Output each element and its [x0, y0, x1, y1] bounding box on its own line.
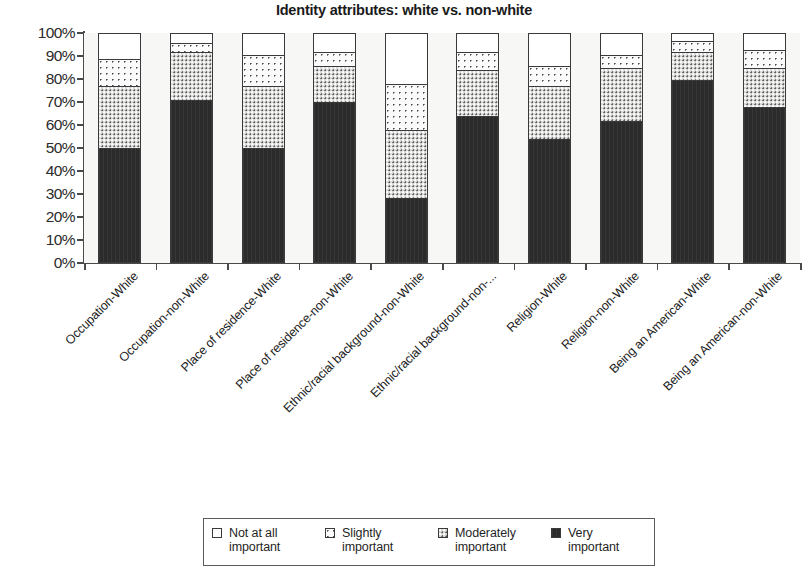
bar-segment	[601, 68, 642, 120]
y-tick-label: 90%	[46, 48, 75, 64]
y-tick-mark	[77, 216, 84, 218]
bar-segment	[171, 34, 212, 43]
bar-segment	[171, 43, 212, 52]
bar-segment	[386, 198, 427, 262]
x-axis-label: Religion-White	[504, 269, 570, 335]
chart-title: Identity attributes: white vs. non-white	[0, 2, 808, 18]
y-tick-mark	[77, 124, 84, 126]
bar-segment	[529, 66, 570, 87]
legend-label-line2: important	[229, 540, 280, 554]
y-tick-mark	[77, 32, 84, 34]
legend-label: Not at allimportant	[229, 526, 280, 554]
bar-segment	[171, 100, 212, 262]
stacked-bar[interactable]	[170, 33, 213, 263]
y-tick-label: 10%	[46, 232, 75, 248]
plot-area	[84, 33, 800, 263]
bar-segment	[672, 52, 713, 79]
x-axis-label: Religion-non-White	[559, 269, 642, 352]
legend-label-line1: Very	[568, 526, 619, 540]
stacked-bar[interactable]	[528, 33, 571, 263]
legend-item[interactable]: Veryimportant	[551, 526, 664, 554]
x-axis-label: Place of residence-non-White	[233, 269, 356, 392]
stacked-bar[interactable]	[242, 33, 285, 263]
legend-swatch-icon	[438, 528, 448, 538]
bar-segment	[171, 52, 212, 100]
legend-item[interactable]: Slightlyimportant	[325, 526, 438, 554]
y-tick-mark	[77, 170, 84, 172]
y-tick-label: 40%	[46, 163, 75, 179]
bar-segment	[314, 52, 355, 66]
bar-segment	[314, 66, 355, 102]
stacked-bar[interactable]	[313, 33, 356, 263]
legend-label: Veryimportant	[568, 526, 619, 554]
stacked-bar[interactable]	[743, 33, 786, 263]
legend-label-line1: Not at all	[229, 526, 280, 540]
legend-label-line1: Slightly	[342, 526, 393, 540]
bar-segment	[243, 55, 284, 87]
bar-segment	[672, 34, 713, 41]
bar-segment	[601, 121, 642, 262]
y-tick-mark	[77, 55, 84, 57]
stacked-bar[interactable]	[385, 33, 428, 263]
y-tick-label: 20%	[46, 209, 75, 225]
legend-swatch-icon	[325, 528, 335, 538]
bar-segment	[457, 34, 498, 52]
bar-segment	[243, 148, 284, 262]
legend-item[interactable]: Moderatelyimportant	[438, 526, 551, 554]
bar-segment	[672, 80, 713, 262]
legend-swatch-icon	[212, 528, 222, 538]
x-tick-mark	[227, 263, 229, 270]
x-tick-mark	[299, 263, 301, 270]
x-tick-mark	[370, 263, 372, 270]
bar-segment	[314, 102, 355, 262]
y-tick-mark	[77, 239, 84, 241]
bar-segment	[386, 34, 427, 84]
bar-segment	[99, 34, 140, 59]
legend-label-line1: Moderately	[455, 526, 516, 540]
bar-segment	[386, 130, 427, 198]
bar-segment	[744, 107, 785, 262]
stacked-bar[interactable]	[456, 33, 499, 263]
stacked-bar[interactable]	[600, 33, 643, 263]
legend-label: Slightlyimportant	[342, 526, 393, 554]
legend-label-line2: important	[455, 540, 516, 554]
y-tick-mark	[77, 147, 84, 149]
stacked-bar[interactable]	[671, 33, 714, 263]
y-tick-mark	[77, 101, 84, 103]
stacked-bar[interactable]	[98, 33, 141, 263]
bar-segment	[99, 86, 140, 148]
legend-swatch-icon	[551, 528, 561, 538]
bar-segment	[457, 70, 498, 116]
bar-segment	[529, 86, 570, 138]
bar-segment	[672, 41, 713, 52]
bar-segment	[386, 84, 427, 130]
bar-segment	[744, 68, 785, 107]
bar-segment	[529, 139, 570, 262]
bar-segment	[744, 34, 785, 50]
legend-label-line2: important	[568, 540, 619, 554]
bar-segment	[243, 86, 284, 148]
bar-segment	[529, 34, 570, 66]
x-tick-mark	[156, 263, 158, 270]
y-tick-label: 100%	[38, 25, 75, 41]
y-tick-label: 50%	[46, 140, 75, 156]
x-tick-mark	[800, 263, 802, 270]
x-tick-mark	[84, 263, 86, 270]
bar-segment	[457, 52, 498, 70]
y-tick-mark	[77, 262, 84, 264]
x-axis-label: Being an American-non-White	[661, 269, 785, 393]
x-tick-mark	[728, 263, 730, 270]
x-tick-mark	[657, 263, 659, 270]
bar-segment	[314, 34, 355, 52]
x-axis-label: Ethnic/racial background-non-...	[367, 269, 498, 400]
legend-label: Moderatelyimportant	[455, 526, 516, 554]
legend-label-line2: important	[342, 540, 393, 554]
x-axis-label: Ethnic/racial background-non-White	[281, 269, 427, 415]
legend-item[interactable]: Not at allimportant	[212, 526, 325, 554]
bar-segment	[243, 34, 284, 55]
chart-legend: Not at allimportantSlightlyimportantMode…	[203, 518, 655, 566]
y-tick-mark	[77, 78, 84, 80]
y-tick-mark	[77, 193, 84, 195]
bar-segment	[99, 59, 140, 86]
y-tick-label: 80%	[46, 71, 75, 87]
